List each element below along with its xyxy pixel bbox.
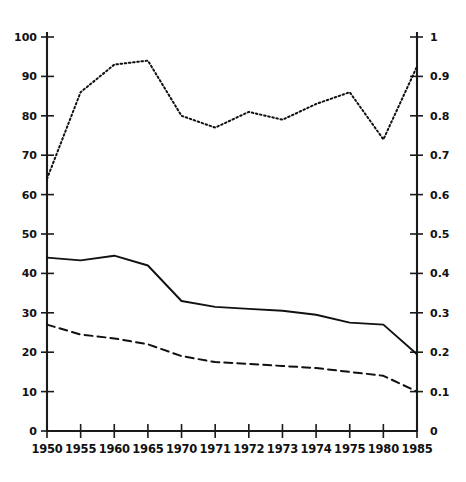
- year-tick-label: 1950: [31, 442, 62, 456]
- year-tick-label: 1973: [267, 442, 298, 456]
- left-value-axis: 0102030405060708090100: [14, 31, 54, 438]
- dashed-lower-series: [47, 325, 417, 392]
- right-value-axis: 00.10.20.30.40.50.60.70.80.91: [410, 31, 450, 438]
- left-tick-label: 10: [22, 386, 38, 399]
- year-tick-label: 1955: [65, 442, 96, 456]
- left-tick-label: 50: [22, 228, 38, 241]
- right-tick-label: 0.5: [430, 228, 450, 241]
- right-tick-label: 0: [430, 425, 438, 438]
- left-tick-label: 80: [22, 110, 38, 123]
- right-tick-label: 0.6: [430, 189, 450, 202]
- year-tick-label: 1971: [200, 442, 231, 456]
- year-tick-label: 1975: [334, 442, 365, 456]
- left-tick-label: 70: [22, 149, 38, 162]
- year-tick-label: 1985: [401, 442, 432, 456]
- year-tick-label: 1974: [300, 442, 331, 456]
- right-tick-label: 0.9: [430, 70, 450, 83]
- year-tick-label: 1960: [99, 442, 130, 456]
- left-tick-label: 30: [22, 307, 38, 320]
- solid-middle-series: [47, 256, 417, 355]
- right-tick-label: 0.3: [430, 307, 450, 320]
- left-tick-label: 40: [22, 267, 38, 280]
- left-tick-label: 20: [22, 346, 38, 359]
- left-tick-label: 0: [29, 425, 37, 438]
- left-tick-label: 60: [22, 189, 38, 202]
- right-tick-label: 0.1: [430, 386, 450, 399]
- year-axis: 1950195519601965197019711972197319741975…: [31, 424, 432, 456]
- right-tick-label: 0.7: [430, 149, 450, 162]
- dotted-upper-series: [47, 61, 417, 179]
- right-tick-label: 0.8: [430, 110, 450, 123]
- left-tick-label: 90: [22, 70, 38, 83]
- year-tick-label: 1972: [233, 442, 264, 456]
- chart-plot-area: 0102030405060708090100 00.10.20.30.40.50…: [0, 0, 466, 482]
- right-tick-label: 0.2: [430, 346, 450, 359]
- right-tick-label: 1: [430, 31, 438, 44]
- right-tick-label: 0.4: [430, 267, 450, 280]
- year-tick-label: 1970: [166, 442, 197, 456]
- data-series-group: [47, 61, 417, 392]
- left-tick-label: 100: [14, 31, 37, 44]
- line-chart: 0102030405060708090100 00.10.20.30.40.50…: [0, 0, 466, 482]
- year-tick-label: 1980: [368, 442, 399, 456]
- year-tick-label: 1965: [132, 442, 163, 456]
